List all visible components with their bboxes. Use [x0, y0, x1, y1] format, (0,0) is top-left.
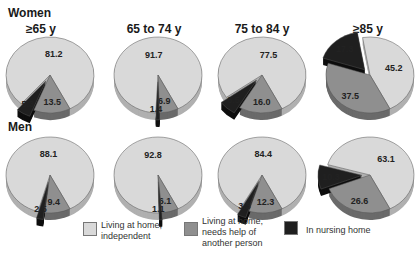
svg-text:9.4: 9.4 — [48, 197, 61, 207]
svg-text:12.3: 12.3 — [257, 197, 275, 207]
legend-label-help: Living at home, needs help of another pe… — [202, 216, 263, 249]
legend-label-independent: Living at home, independent — [101, 220, 162, 242]
svg-text:45.2: 45.2 — [385, 63, 403, 73]
legend-label-nursing: In nursing home — [306, 225, 371, 236]
svg-text:3.3: 3.3 — [238, 201, 251, 211]
svg-text:17.3: 17.3 — [336, 44, 354, 54]
svg-text:10.3: 10.3 — [322, 172, 340, 182]
svg-text:77.5: 77.5 — [260, 50, 278, 60]
legend-swatch-nursing — [284, 221, 298, 235]
svg-text:81.2: 81.2 — [45, 49, 63, 59]
pie-men-2: 84.412.33.3 — [207, 130, 317, 230]
pie-men-0: 88.19.42.5 — [0, 130, 105, 230]
svg-text:1.4: 1.4 — [150, 104, 163, 114]
pie-women-0: 81.213.55.3 — [0, 30, 105, 130]
pie-women-1: 91.76.91.4 — [103, 30, 213, 130]
svg-text:16.0: 16.0 — [253, 97, 271, 107]
svg-text:63.1: 63.1 — [377, 154, 395, 164]
pie-women-2: 77.516.06.5 — [207, 30, 317, 130]
svg-text:91.7: 91.7 — [145, 50, 163, 60]
svg-text:37.5: 37.5 — [341, 91, 359, 101]
legend-swatch-help — [184, 222, 198, 236]
pie-men-1: 92.86.11.1 — [103, 130, 213, 230]
svg-text:92.8: 92.8 — [144, 150, 162, 160]
svg-text:13.5: 13.5 — [43, 97, 61, 107]
svg-text:26.6: 26.6 — [351, 196, 369, 206]
row-title-women: Women — [8, 6, 51, 20]
svg-text:1.1: 1.1 — [152, 204, 165, 214]
svg-text:2.5: 2.5 — [34, 204, 47, 214]
svg-text:88.1: 88.1 — [40, 149, 58, 159]
pie-men-3: 63.126.610.3 — [315, 130, 419, 230]
svg-text:5.3: 5.3 — [21, 99, 34, 109]
pie-women-3: 45.237.517.3 — [315, 30, 419, 130]
legend-swatch-independent — [83, 222, 97, 236]
svg-text:84.4: 84.4 — [254, 149, 272, 159]
svg-text:6.5: 6.5 — [227, 95, 240, 105]
